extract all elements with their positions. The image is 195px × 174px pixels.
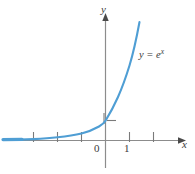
x-tick-label-one: 1 [124,143,130,154]
curve-equation-base: y = e [139,49,161,60]
y-axis-label: y [101,4,106,15]
exponential-curve [3,22,140,140]
exponential-function-figure: y x 0 1 y = ex [0,0,195,174]
curve-equation-exponent: x [161,47,164,56]
curve-equation-label: y = ex [139,50,164,61]
origin-tick-label: 0 [94,143,100,154]
x-axis-label: x [182,139,187,150]
